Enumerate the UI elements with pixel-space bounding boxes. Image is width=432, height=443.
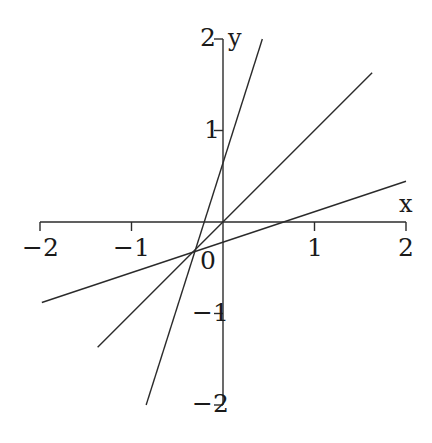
y-tick-label: 2 (200, 25, 216, 50)
y-tick-label: −2 (192, 391, 229, 416)
plot-canvas: −2−11221−1−2 x y 0 (0, 0, 432, 443)
x-tick-label: −2 (22, 235, 59, 260)
y-axis-label: y (228, 26, 242, 50)
data-line-shallow-line (42, 181, 406, 302)
y-tick-label: −1 (192, 300, 229, 325)
x-axis-label: x (399, 192, 413, 216)
data-line-medium-line (98, 73, 373, 348)
x-tick-label: −1 (113, 235, 150, 260)
plot-graphics (0, 0, 432, 443)
origin-tick-label: 0 (200, 248, 216, 273)
y-tick-label: 1 (204, 117, 220, 142)
x-tick-label: 1 (307, 235, 323, 260)
x-tick-label: 2 (398, 235, 414, 260)
